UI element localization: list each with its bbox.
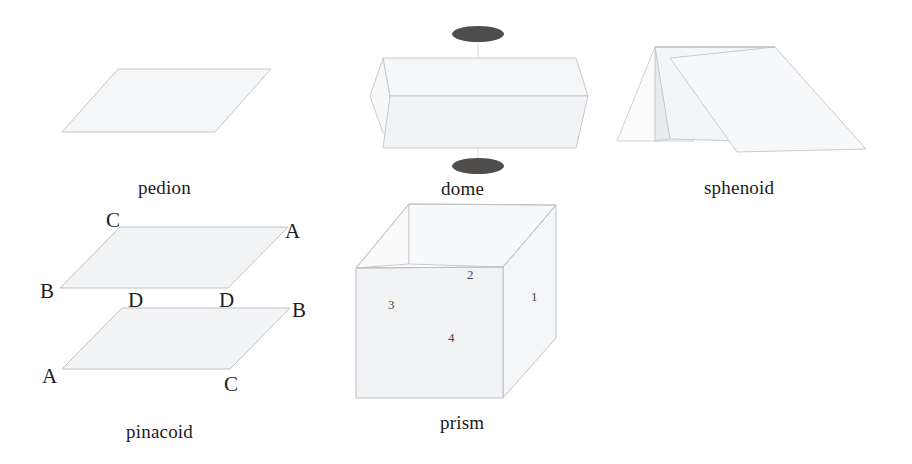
- prism-face-number-2: 2: [467, 268, 474, 281]
- dome-upper-face: [383, 58, 588, 96]
- pinacoid-vertex-c-bottom: C: [224, 374, 238, 395]
- prism-face-number-3: 3: [388, 298, 395, 311]
- prism-shape: [356, 204, 556, 398]
- pinacoid-upper-face: [60, 227, 288, 288]
- label-dome: dome: [441, 179, 484, 198]
- prism-top-rim: [356, 204, 556, 268]
- dome-upper-mirror-marker: [452, 26, 504, 42]
- pinacoid-vertex-b-lower-right: B: [292, 300, 306, 321]
- sphenoid-rear-roof-face: [655, 47, 817, 143]
- shape-layer: [0, 0, 912, 464]
- prism-face-number-1: 1: [531, 290, 538, 303]
- pinacoid-vertex-a-top: A: [285, 221, 300, 242]
- prism-inner-back-left-face: [356, 204, 409, 268]
- sphenoid-front-roof-face: [670, 47, 866, 152]
- pinacoid-vertex-d-right: D: [219, 290, 234, 311]
- pedion-shape: [62, 69, 271, 132]
- prism-face-right: [503, 205, 556, 398]
- prism-inner-back-face: [409, 204, 556, 267]
- prism-face-front: [356, 267, 503, 398]
- pinacoid-vertex-d-left: D: [128, 290, 143, 311]
- sphenoid-left-gable-face: [655, 47, 670, 141]
- pinacoid-vertex-a-bottom: A: [42, 366, 57, 387]
- sphenoid-shape: [617, 47, 866, 152]
- dome-lower-mirror-marker: [452, 158, 504, 174]
- sphenoid-rear-end-face: [617, 47, 694, 141]
- dome-left-end-face: [370, 58, 417, 133]
- pedion-face: [62, 69, 271, 132]
- label-prism: prism: [440, 413, 484, 432]
- pinacoid-vertex-c-top: C: [106, 210, 120, 231]
- label-sphenoid: sphenoid: [704, 178, 774, 197]
- dome-shape: [370, 26, 588, 174]
- label-pedion: pedion: [138, 178, 191, 197]
- crystal-forms-figure: pedion pinacoid dome sphenoid prism C A …: [0, 0, 912, 464]
- prism-face-number-4: 4: [448, 331, 455, 344]
- label-pinacoid: pinacoid: [126, 422, 193, 441]
- pinacoid-shape: [60, 227, 290, 369]
- dome-lower-face: [383, 96, 588, 148]
- pinacoid-vertex-b-upper-left: B: [40, 281, 54, 302]
- pinacoid-lower-face: [62, 308, 290, 369]
